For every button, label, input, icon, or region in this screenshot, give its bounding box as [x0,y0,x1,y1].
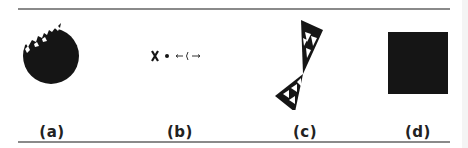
bottom-rule [18,141,450,143]
fractal-disk-icon [18,20,88,90]
sierpinski-triangles-icon [273,18,333,110]
sparse-points-icon [150,48,210,64]
panel-c-label: (c) [285,123,325,141]
panel-a: (a) [18,12,118,138]
panel-d: (d) [375,12,455,138]
top-rule [18,8,450,10]
panel-d-label: (d) [398,123,438,141]
page-edge [462,0,468,148]
filled-square-icon [388,32,448,94]
panel-b-label: (b) [160,123,200,141]
panel-b: (b) [130,12,240,138]
panel-a-label: (a) [32,123,72,141]
panel-c: (c) [255,12,355,138]
